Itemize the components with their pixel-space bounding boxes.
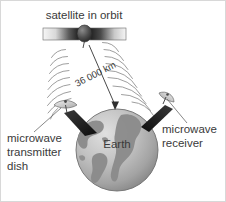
- satellite-communication-diagram: satellite in orbit Earth 36 000 km micro…: [0, 0, 226, 202]
- satellite-solar-panel-right: [90, 28, 126, 40]
- transmitter-label-line-3: dish: [7, 160, 28, 172]
- transmitter-label-line-1: microwave: [7, 132, 62, 144]
- satellite-body: [77, 25, 92, 42]
- receiver-dish-reflector: [159, 92, 174, 102]
- earth-sphere: [76, 109, 158, 191]
- receiver-dish-feed-horn: [166, 93, 169, 96]
- diagram-canvas: satellite in orbit Earth 36 000 km micro…: [1, 1, 226, 202]
- transmitter-label-line-2: transmitter: [7, 146, 61, 158]
- satellite: [43, 25, 126, 48]
- transmitter-leader-line: [34, 108, 61, 132]
- earth-label: Earth: [103, 138, 131, 150]
- wave-arcs-right-beam: [103, 42, 154, 115]
- satellite-title-label: satellite in orbit: [46, 9, 124, 21]
- receiver-label-line-1: microwave: [162, 123, 217, 135]
- distance-label: 36 000 km: [73, 59, 118, 89]
- receiver-label-line-2: receiver: [162, 137, 203, 149]
- microwave-transmitter-dish: [54, 100, 97, 136]
- wave-arcs-left-beam: [48, 50, 72, 120]
- satellite-solar-panel-left: [43, 28, 79, 40]
- transmitter-dish-feed-horn: [64, 100, 67, 103]
